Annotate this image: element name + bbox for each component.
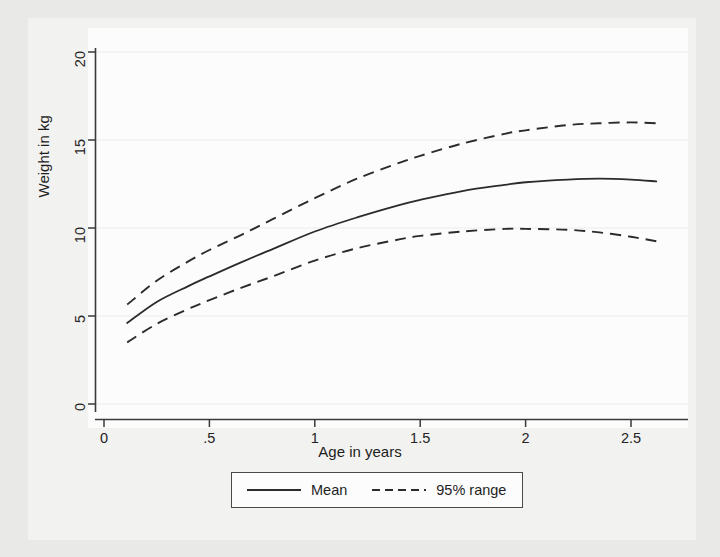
chart-page: 05101520 0.511.522.5 Weight in kg Age in… <box>0 0 720 557</box>
legend-item-95-range: 95% range <box>371 482 506 498</box>
y-axis-tick-label: 5 <box>72 315 88 355</box>
y-axis-title: Weight in kg <box>35 180 52 198</box>
y-axis-tick-label: 10 <box>72 227 88 267</box>
chart-legend: Mean 95% range <box>231 472 523 508</box>
legend-label-mean: Mean <box>311 482 347 498</box>
series-line-95-range-lower <box>127 229 656 343</box>
y-axis-tick-label: 15 <box>72 139 88 179</box>
legend-swatch-dashed-icon <box>371 484 427 496</box>
legend-swatch-solid-icon <box>246 484 302 496</box>
legend-item-mean: Mean <box>246 482 347 498</box>
axis-ticks <box>88 52 631 427</box>
y-axis-tick-label: 20 <box>72 51 88 91</box>
x-axis-title: Age in years <box>0 443 720 460</box>
legend-label-95-range: 95% range <box>436 482 506 498</box>
gridlines <box>96 52 688 404</box>
